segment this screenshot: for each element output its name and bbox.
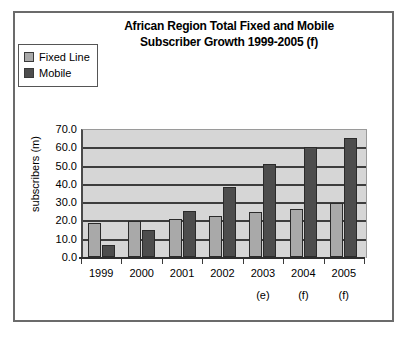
x-axis-label-note: (f): [324, 288, 364, 302]
x-axis-tick: [283, 259, 284, 264]
bar-mobile: [183, 211, 196, 257]
bar-group: [324, 129, 364, 257]
bar-mobile: [263, 164, 276, 257]
x-axis-tick: [81, 259, 82, 264]
bar-group: [121, 129, 161, 257]
bar-group: [202, 129, 242, 257]
chart-legend: Fixed Line Mobile: [18, 44, 98, 87]
x-axis-label-year: 2001: [162, 266, 202, 280]
bar-fixed-line: [88, 223, 101, 257]
x-axis-label-year: 2000: [121, 266, 161, 280]
x-axis-tick-label: 2003(e): [243, 266, 283, 302]
legend-swatch-mobile: [24, 68, 34, 78]
x-axis-tick: [202, 259, 203, 264]
legend-label-mobile: Mobile: [39, 67, 71, 79]
bar-group: [283, 129, 323, 257]
y-axis-tick-labels: 70.060.050.040.030.020.010.00.0: [39, 129, 77, 257]
bar-group: [81, 129, 121, 257]
bar-fixed-line: [169, 219, 182, 257]
bar-group: [243, 129, 283, 257]
bar-mobile: [102, 245, 115, 257]
x-axis-label-note: (e): [243, 288, 283, 302]
bar-fixed-line: [330, 203, 343, 257]
x-axis-label-year: 2002: [202, 266, 242, 280]
x-axis-label-year: 2003: [243, 266, 283, 280]
x-axis-tick: [243, 259, 244, 264]
bar-fixed-line: [209, 216, 222, 257]
x-axis-label-year: 2004: [283, 266, 323, 280]
x-axis-tick: [162, 259, 163, 264]
x-axis-label-year: 2005: [324, 266, 364, 280]
bar-mobile: [304, 147, 317, 257]
chart-frame: African Region Total Fixed and Mobile Su…: [13, 11, 394, 322]
x-axis-tick-label: 2005(f): [324, 266, 364, 302]
bar-mobile: [223, 187, 236, 257]
x-axis-tick-label: 2002: [202, 266, 242, 280]
y-axis-tick-label: 60.0: [39, 142, 77, 152]
y-axis-tick-label: 30.0: [39, 197, 77, 207]
y-axis-tick-label: 70.0: [39, 124, 77, 134]
bar-mobile: [344, 138, 357, 257]
x-axis-tick-label: 1999: [81, 266, 121, 280]
x-axis-tick: [364, 259, 365, 264]
x-axis-tick-label: 2001: [162, 266, 202, 280]
legend-item-fixed-line: Fixed Line: [24, 49, 90, 65]
legend-item-mobile: Mobile: [24, 65, 90, 81]
y-axis-tick-label: 40.0: [39, 179, 77, 189]
y-axis-tick-label: 50.0: [39, 161, 77, 171]
x-axis-tick-label: 2000: [121, 266, 161, 280]
bar-mobile: [142, 230, 155, 257]
y-axis-tick-label: 20.0: [39, 215, 77, 225]
x-axis-label-year: 1999: [81, 266, 121, 280]
x-axis-tick: [324, 259, 325, 264]
legend-label-fixed-line: Fixed Line: [39, 51, 90, 63]
bars-layer: [81, 129, 364, 257]
legend-swatch-fixed-line: [24, 52, 34, 62]
x-axis-ticks: [81, 259, 364, 264]
x-axis-tick: [121, 259, 122, 264]
y-axis-tick-label: 0.0: [39, 252, 77, 262]
bar-fixed-line: [128, 221, 141, 257]
x-axis-tick-labels: 19992000200120022003(e)2004(f)2005(f): [81, 266, 364, 312]
bar-fixed-line: [249, 212, 262, 257]
bar-group: [162, 129, 202, 257]
bar-fixed-line: [290, 209, 303, 257]
x-axis-label-note: (f): [283, 288, 323, 302]
y-axis-tick-label: 10.0: [39, 234, 77, 244]
x-axis-tick-label: 2004(f): [283, 266, 323, 302]
